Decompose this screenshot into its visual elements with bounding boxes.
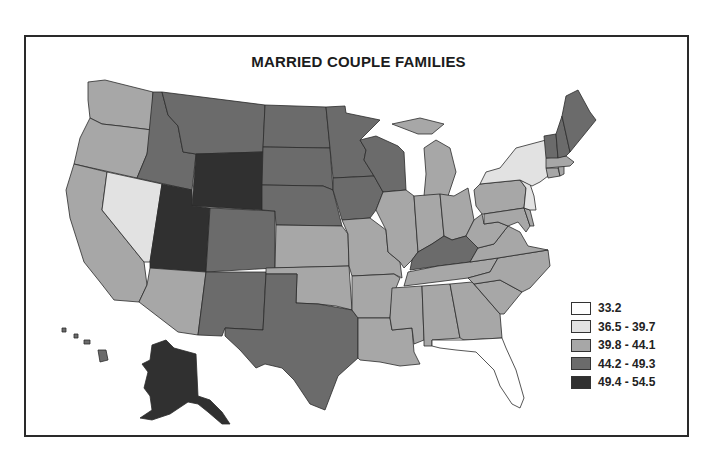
state-ak <box>140 340 230 424</box>
state-az <box>139 268 206 335</box>
state-ct <box>546 168 560 178</box>
legend-label: 39.8 - 44.1 <box>598 338 655 352</box>
legend-label: 49.4 - 54.5 <box>598 375 655 389</box>
legend-swatch <box>571 376 591 389</box>
state-ia <box>333 176 383 220</box>
legend-item: 36.5 - 39.7 <box>571 318 655 337</box>
legend-label: 33.2 <box>598 301 621 315</box>
legend-label: 44.2 - 49.3 <box>598 357 655 371</box>
state-nm <box>198 272 266 336</box>
legend-swatch <box>571 302 591 315</box>
legend-label: 36.5 - 39.7 <box>598 320 655 334</box>
state-fl <box>432 338 524 408</box>
legend-item: 39.8 - 44.1 <box>571 336 655 355</box>
state-nd <box>263 105 330 148</box>
state-wy <box>192 152 263 210</box>
state-hi <box>62 328 108 362</box>
legend-item: 33.2 <box>571 299 655 318</box>
legend-swatch <box>571 339 591 352</box>
legend-item: 44.2 - 49.3 <box>571 355 655 374</box>
legend-swatch <box>571 357 591 370</box>
legend: 33.2 36.5 - 39.7 39.8 - 44.1 44.2 - 49.3… <box>571 299 655 392</box>
state-co <box>206 208 275 272</box>
legend-swatch <box>571 320 591 333</box>
legend-item: 49.4 - 54.5 <box>571 373 655 392</box>
state-ny <box>480 140 548 186</box>
us-choropleth-map <box>0 0 717 465</box>
state-ks <box>275 225 349 268</box>
state-sd <box>262 147 333 190</box>
